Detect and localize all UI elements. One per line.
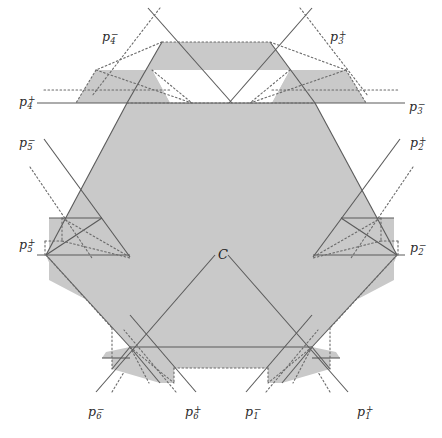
label-p5-plus-sup: +	[28, 237, 36, 247]
label-p2-minus: p2−	[410, 241, 427, 256]
central-hexagon-fill	[46, 103, 397, 347]
label-p2-minus-base: p	[410, 240, 418, 255]
label-p1-plus: p1+	[357, 405, 374, 420]
label-p6-minus-sup: −	[97, 404, 105, 414]
label-p5-minus-sup: −	[28, 135, 36, 145]
label-p1-minus: p1−	[245, 405, 262, 420]
label-p6-minus-base: p	[88, 404, 96, 419]
label-p5-minus-base: p	[19, 135, 27, 150]
label-p1-minus-sup: −	[254, 404, 262, 414]
geometry-diagram	[0, 0, 442, 438]
label-p1-plus-sup: +	[366, 404, 374, 414]
label-p3-minus-base: p	[409, 99, 417, 114]
label-p2-minus-sup: −	[419, 240, 427, 250]
flap-top-left-ear-fill	[76, 70, 170, 103]
label-p5-plus-base: p	[19, 237, 27, 252]
figure-canvas: C p4− p3+ p4+ p3− p5− p2+ p5+ p2− p6− p6…	[0, 0, 442, 438]
label-p1-minus-base: p	[245, 404, 253, 419]
label-p6-plus-sup: +	[194, 404, 202, 414]
label-p1-plus-base: p	[357, 404, 365, 419]
label-p3-plus-sup: +	[339, 29, 347, 39]
label-p2-plus-base: p	[410, 135, 418, 150]
label-p3-minus-sup: −	[418, 99, 426, 109]
label-p4-plus: p4+	[19, 95, 36, 110]
label-p3-minus: p3−	[409, 100, 426, 115]
dotted-p6-minus	[112, 372, 124, 392]
label-p3-plus: p3+	[330, 30, 347, 45]
label-p4-plus-sup: +	[28, 94, 36, 104]
label-p3-plus-base: p	[330, 29, 338, 44]
label-p6-plus: p6+	[185, 405, 202, 420]
dotted-p1-plus	[318, 372, 330, 392]
label-p4-minus-base: p	[102, 29, 110, 44]
label-p2-plus: p2+	[410, 136, 427, 151]
label-p5-minus: p5−	[19, 136, 36, 151]
label-p4-minus-sup: −	[111, 29, 119, 39]
filled-region-group	[46, 42, 397, 383]
region-center-label: C	[218, 247, 228, 262]
label-p6-plus-base: p	[185, 404, 193, 419]
label-p4-minus: p4−	[102, 30, 119, 45]
label-p2-plus-sup: +	[419, 135, 427, 145]
label-p4-plus-base: p	[19, 94, 27, 109]
label-p5-plus: p5+	[19, 238, 36, 253]
label-p6-minus: p6−	[88, 405, 105, 420]
